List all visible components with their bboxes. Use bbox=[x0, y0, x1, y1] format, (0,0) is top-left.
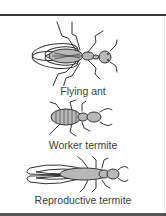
reproductive-termite-label: Reproductive termite bbox=[0, 194, 166, 206]
reproductive-termite-illustration bbox=[0, 152, 166, 194]
flying-ant-illustration bbox=[0, 16, 166, 86]
worker-termite-label: Worker termite bbox=[0, 139, 166, 151]
bottom-border bbox=[0, 213, 166, 216]
worker-termite-illustration bbox=[0, 98, 166, 140]
flying-ant-label: Flying ant bbox=[0, 85, 166, 97]
